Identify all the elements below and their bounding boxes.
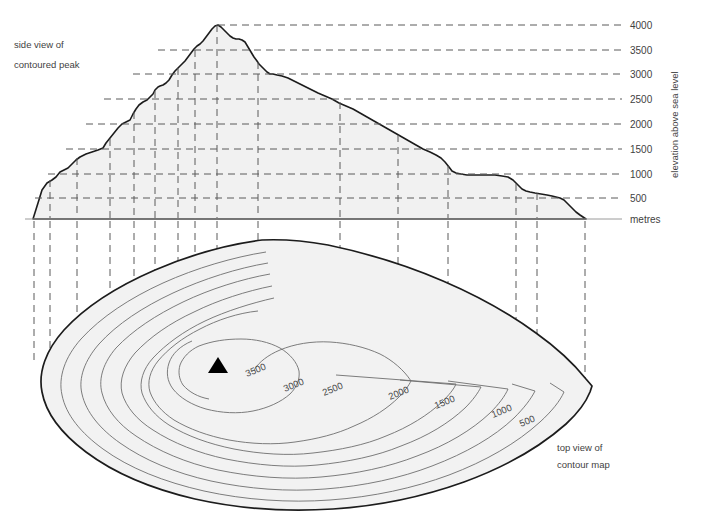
- top-view-caption-line1: top view of: [557, 442, 603, 453]
- diagram-svg: 3500 3000 2500 2000 1500 1000 500 4000 3…: [0, 0, 702, 516]
- side-view-caption-line2: contoured peak: [14, 59, 80, 70]
- top-view-group: 3500 3000 2500 2000 1500 1000 500: [41, 240, 592, 510]
- top-view-caption: top view of contour map: [557, 442, 610, 470]
- elevation-axis-labels: 4000 3500 3000 2500 2000 1500 1000 500 m…: [630, 20, 661, 225]
- tick-label-4000: 4000: [630, 20, 653, 31]
- elevation-axis-title: elevation above sea level: [669, 71, 680, 178]
- tick-label-2000: 2000: [630, 119, 653, 130]
- side-view-group: [25, 25, 622, 219]
- tick-label-1000: 1000: [630, 169, 653, 180]
- top-view-caption-line2: contour map: [557, 459, 610, 470]
- mountain-profile: [33, 25, 586, 219]
- tick-label-3000: 3000: [630, 69, 653, 80]
- contour-diagram-figure: 3500 3000 2500 2000 1500 1000 500 4000 3…: [0, 0, 702, 516]
- tick-label-2500: 2500: [630, 94, 653, 105]
- tick-label-3500: 3500: [630, 45, 653, 56]
- tick-label-500: 500: [630, 193, 647, 204]
- side-view-caption: side view of contoured peak: [14, 39, 80, 70]
- map-outline-0m: [41, 240, 592, 510]
- tick-label-1500: 1500: [630, 144, 653, 155]
- units-label: metres: [630, 214, 661, 225]
- side-view-caption-line1: side view of: [14, 39, 64, 50]
